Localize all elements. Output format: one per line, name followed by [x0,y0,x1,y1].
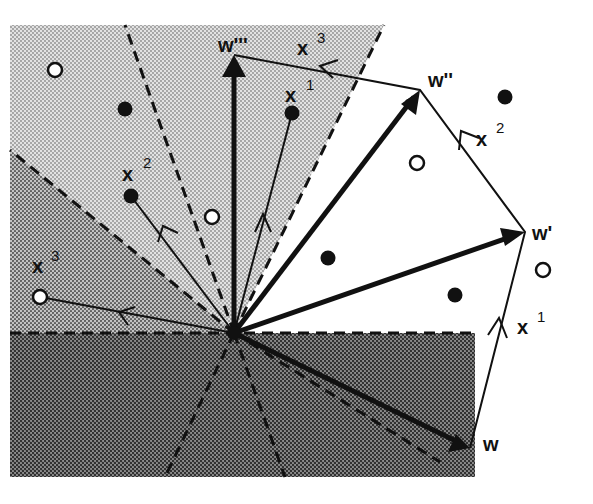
label-step-x3-sup: 3 [317,29,325,46]
open-point [536,263,550,277]
label-step-x3: x [297,37,308,59]
label-input-x1-sup: 1 [306,76,314,93]
label-input-x3-sup: 3 [51,247,59,264]
open-point [205,210,219,224]
perceptron-diagram: w w' w'' w''' x 1 x 2 x 3 x 1 x 2 x 3 [0,0,593,504]
filled-point [498,90,513,105]
filled-point-x1 [285,106,300,121]
filled-point [118,102,133,117]
filled-point [448,288,463,303]
label-w-triple-prime: w''' [217,34,248,56]
label-w: w [482,433,499,455]
open-point [48,63,62,77]
shaded-regions [10,25,475,477]
arrowhead-icon [488,318,507,338]
label-step-x2: x [476,128,487,150]
label-w-double-prime: w'' [427,69,453,91]
label-input-x2-sup: 2 [143,154,151,171]
label-input-x3: x [32,255,43,277]
label-step-x2-sup: 2 [496,119,504,136]
label-w-prime: w' [531,222,552,244]
label-input-x1: x [285,84,296,106]
label-step-x1: x [517,316,528,338]
weight-vector-w-prime [234,235,516,333]
label-step-x1-sup: 1 [537,308,545,325]
open-point [410,156,424,170]
filled-point-x2 [124,189,139,204]
label-input-x2: x [122,163,133,185]
filled-point [321,251,336,266]
origin-point [227,326,241,340]
open-point-x3 [33,290,47,304]
